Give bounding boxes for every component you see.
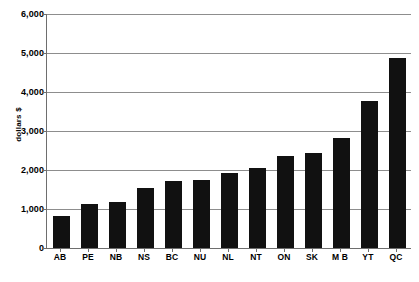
bar	[53, 216, 70, 248]
bar	[81, 204, 98, 248]
bar	[361, 101, 378, 248]
y-tick-label: 0	[0, 244, 44, 253]
bar-slot	[131, 14, 159, 248]
bar-slot	[327, 14, 355, 248]
x-tick-label: PE	[74, 253, 102, 262]
x-tick-slot: ON	[270, 249, 298, 269]
x-tick-slot: AB	[46, 249, 74, 269]
bar	[305, 153, 322, 248]
x-tick-slot: M B	[326, 249, 354, 269]
bar-slot	[355, 14, 383, 248]
x-tick-label: QC	[382, 253, 410, 262]
bar-slot	[103, 14, 131, 248]
plot-area	[46, 14, 411, 249]
x-tick-slot: NS	[130, 249, 158, 269]
y-tick-label: 6,000	[0, 10, 44, 19]
bar-slot	[47, 14, 75, 248]
y-tick-label: 4,000	[0, 88, 44, 97]
x-tick-label: M B	[326, 253, 354, 262]
x-tick-slot: NU	[186, 249, 214, 269]
bar	[109, 202, 126, 248]
x-axis-tick-labels: ABPENBNSBCNUNLNTONSKM BYTQC	[46, 249, 410, 269]
y-tick-label: 1,000	[0, 205, 44, 214]
bar-series	[47, 14, 411, 248]
x-tick-label: NT	[242, 253, 270, 262]
bar	[193, 180, 210, 248]
x-tick-slot: SK	[298, 249, 326, 269]
x-tick-slot: NT	[242, 249, 270, 269]
x-tick-slot: NB	[102, 249, 130, 269]
bar-slot	[215, 14, 243, 248]
x-tick-label: ON	[270, 253, 298, 262]
bar	[249, 168, 266, 248]
x-tick-label: NL	[214, 253, 242, 262]
bar-slot	[271, 14, 299, 248]
x-tick-label: YT	[354, 253, 382, 262]
x-tick-label: BC	[158, 253, 186, 262]
x-tick-label: NU	[186, 253, 214, 262]
bar	[221, 173, 238, 248]
bar	[165, 181, 182, 248]
x-tick-slot: QC	[382, 249, 410, 269]
bar	[333, 138, 350, 248]
bar-slot	[299, 14, 327, 248]
x-tick-slot: BC	[158, 249, 186, 269]
bar-slot	[383, 14, 411, 248]
x-tick-slot: PE	[74, 249, 102, 269]
bar-slot	[187, 14, 215, 248]
x-tick-slot: NL	[214, 249, 242, 269]
y-axis-tick-labels: 01,0002,0003,0004,0005,0006,000	[0, 0, 44, 282]
bar-slot	[75, 14, 103, 248]
y-tick-label: 2,000	[0, 166, 44, 175]
bar	[277, 156, 294, 248]
x-tick-slot: YT	[354, 249, 382, 269]
bar-chart-figure: dollars $ 01,0002,0003,0004,0005,0006,00…	[0, 0, 419, 282]
y-tick-label: 5,000	[0, 49, 44, 58]
bar-slot	[159, 14, 187, 248]
bar	[389, 58, 406, 248]
bar-slot	[243, 14, 271, 248]
clipped-title-text	[28, 0, 218, 3]
x-tick-label: NB	[102, 253, 130, 262]
x-tick-label: SK	[298, 253, 326, 262]
bar	[137, 188, 154, 248]
x-tick-label: AB	[46, 253, 74, 262]
y-tick-label: 3,000	[0, 127, 44, 136]
x-tick-label: NS	[130, 253, 158, 262]
